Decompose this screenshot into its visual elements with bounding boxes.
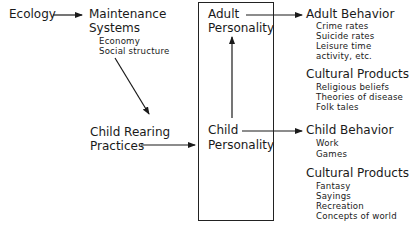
node-child-behavior: Child Behavior [306, 124, 393, 136]
node-child-rearing-line2: Practices [90, 140, 144, 152]
child-behavior-item: Games [316, 150, 347, 159]
adult-behavior-item: activity, etc. [316, 52, 372, 61]
cultural-products-2-item: Recreation [316, 202, 364, 211]
node-adult-personality-line1: Adult [208, 8, 239, 20]
node-maintenance-line1: Maintenance [89, 8, 166, 20]
cultural-products-2-item: Concepts of world [316, 212, 397, 221]
cultural-products-2-item: Sayings [316, 192, 351, 201]
cultural-products-1-item: Religious beliefs [316, 83, 389, 92]
cultural-products-2-item: Fantasy [316, 182, 350, 191]
arrow-maintenance-to-childrearing [115, 58, 149, 114]
maintenance-item: Economy [99, 37, 140, 46]
node-child-personality-line1: Child [208, 124, 238, 136]
node-ecology: Ecology [9, 8, 56, 20]
node-child-personality-line2: Personality [208, 139, 274, 151]
adult-behavior-item: Suicide rates [316, 32, 374, 41]
node-cultural-products-1: Cultural Products [306, 68, 409, 80]
node-cultural-products-2: Cultural Products [306, 167, 409, 179]
cultural-products-1-item: Folk tales [316, 103, 359, 112]
node-child-rearing-line1: Child Rearing [90, 126, 170, 138]
node-adult-personality-line2: Personality [208, 22, 274, 34]
node-maintenance-line2: Systems [89, 22, 140, 34]
node-adult-behavior: Adult Behavior [306, 8, 394, 20]
cultural-products-1-item: Theories of disease [316, 93, 403, 102]
adult-behavior-item: Leisure time [316, 42, 371, 51]
adult-behavior-item: Crime rates [316, 22, 368, 31]
child-behavior-item: Work [316, 139, 339, 148]
maintenance-item: Social structure [99, 47, 169, 56]
